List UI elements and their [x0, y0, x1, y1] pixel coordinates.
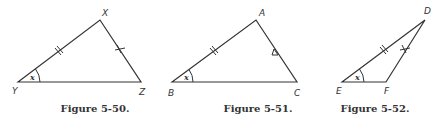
angle-label-x: x: [29, 72, 35, 82]
figure-caption: Figure 5-52.: [341, 103, 410, 114]
figures-canvas: x X Y Z Figure 5-50. x A B C Figure 5-51…: [0, 0, 437, 122]
vertex-label-x: X: [101, 8, 109, 18]
angle-arc-icon: [36, 69, 41, 82]
vertex-label-b: B: [168, 88, 174, 98]
triangle-xyz: [18, 20, 141, 82]
figure-5-52: x D E F Figure 5-52.: [336, 6, 431, 114]
angle-label-x: x: [354, 72, 360, 82]
vertex-label-y: Y: [12, 86, 19, 96]
angle-label-x: x: [183, 72, 189, 82]
vertex-label-a: A: [258, 8, 265, 18]
angle-arc-icon: [360, 69, 365, 82]
vertex-label-c: C: [294, 88, 301, 98]
figure-caption: Figure 5-51.: [224, 103, 293, 114]
vertex-label-e: E: [336, 86, 342, 96]
figure-caption: Figure 5-50.: [61, 103, 130, 114]
figure-5-50: x X Y Z Figure 5-50.: [12, 8, 146, 114]
vertex-label-f: F: [384, 86, 390, 96]
angle-arc-icon: [189, 70, 193, 83]
cross-tick-mark-icon: [115, 45, 125, 53]
vertex-label-d: D: [424, 6, 431, 16]
figure-5-51: x A B C Figure 5-51.: [168, 8, 301, 114]
vertex-label-z: Z: [138, 87, 146, 97]
